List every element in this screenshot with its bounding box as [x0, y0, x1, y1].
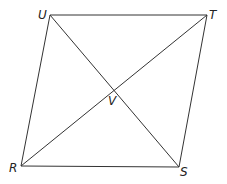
vertex-label-t: T: [209, 8, 218, 22]
diagonal-us: [50, 15, 179, 167]
vertex-label-u: U: [38, 8, 47, 22]
intersection-label-v: V: [108, 94, 117, 108]
vertex-label-s: S: [180, 165, 188, 179]
diagonal-rt: [21, 15, 207, 166]
parallelogram-diagram: U T R S V: [0, 0, 227, 184]
vertex-label-r: R: [9, 161, 17, 175]
side-ru: [21, 15, 50, 166]
side-sr: [21, 166, 179, 167]
side-ts: [179, 15, 207, 167]
